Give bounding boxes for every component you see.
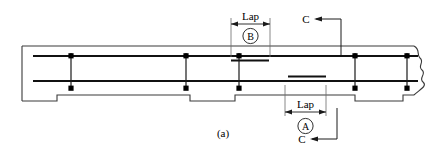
lap-bottom-arrow-left [285,110,292,115]
stirrup [352,53,357,91]
lap-dimension-bottom: Lap A [285,85,326,134]
lap-dimension-top: Lap B [231,10,270,57]
section-top-leader [316,19,341,55]
section-bottom-arrowhead-icon [310,136,318,141]
rebar-group [33,56,418,81]
lap-bottom-arrow-right [319,110,326,115]
lap-top-arrow-left [231,22,238,27]
detail-bubble-a-label: A [302,121,310,132]
stirrup [183,53,188,91]
stirrup-group [68,53,409,91]
beam-bottom-profile [22,95,414,101]
beam-break-line [414,46,424,95]
figure-sheet: Lap B Lap A C C (a) [0,0,448,151]
stirrup [236,53,241,91]
lap-bottom-label: Lap [297,98,315,110]
section-top-label: C [302,13,309,25]
beam-outline-group [22,46,424,101]
figure-caption: (a) [217,127,230,140]
section-bottom-label: C [298,133,305,145]
lap-top-arrow-right [263,22,270,27]
section-marker-c-top: C [302,13,341,56]
beam-elevation-drawing: Lap B Lap A C C (a) [0,0,448,151]
section-top-arrowhead-icon [314,16,322,21]
stirrup [68,53,73,91]
stirrup [404,53,409,91]
section-bottom-leader [312,108,337,139]
lap-top-label: Lap [242,10,260,22]
detail-bubble-b-label: B [247,31,254,42]
